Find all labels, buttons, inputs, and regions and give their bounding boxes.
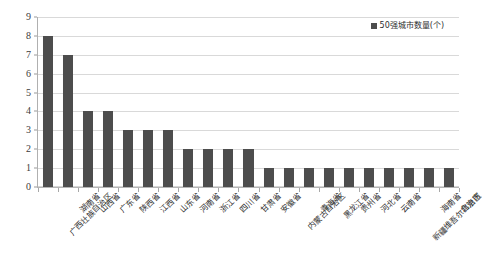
legend: 50强城市数量(个) [371,22,444,30]
legend-label: 50强城市数量(个) [380,22,444,30]
y-axis-tick-mark [34,130,37,131]
bar-slot [118,17,138,187]
x-axis-tick-mark [178,188,179,192]
x-axis-tick-label: 陕西省 [139,192,162,215]
x-axis-tick-label: 河南省 [199,192,222,215]
bar-slot [158,17,178,187]
bar-slot [138,17,158,187]
bar[interactable] [183,149,193,187]
y-axis-tick-label: 5 [26,88,31,98]
bar[interactable] [83,111,93,187]
y-axis-tick-mark [34,111,37,112]
y-axis-tick-mark [34,73,37,74]
x-axis-tick-label: 江西省 [159,192,182,215]
bar[interactable] [444,168,454,187]
bar[interactable] [364,168,374,187]
bar[interactable] [384,168,394,187]
bar[interactable] [103,111,113,187]
x-axis-tick-mark [259,188,260,192]
x-axis-tick-mark [319,188,320,192]
bar[interactable] [143,130,153,187]
x-axis-tick-mark [379,188,380,192]
y-axis-tick-mark [34,168,37,169]
bar[interactable] [344,168,354,187]
x-axis-tick-label: 广东省 [119,192,142,215]
bar-slot [399,17,419,187]
bar[interactable] [163,130,173,187]
bar-slot [299,17,319,187]
gridline [38,187,459,188]
x-axis-tick-mark [198,188,199,192]
bar-slot [58,17,78,187]
bar-slot [319,17,339,187]
x-axis-tick-mark [299,188,300,192]
x-axis-tick-mark [439,188,440,192]
x-axis-tick-mark [459,188,460,192]
x-axis-tick-mark [238,188,239,192]
bar[interactable] [43,36,53,187]
x-axis-tick-mark [279,188,280,192]
y-axis-tick-label: 9 [26,12,31,22]
bar-slot [238,17,258,187]
bar-slot [379,17,399,187]
x-axis-tick-mark [98,188,99,192]
bar-slot [218,17,238,187]
x-axis-tick-label: 山东省 [179,192,202,215]
y-axis-tick-mark [34,187,37,188]
bar-slot [178,17,198,187]
x-axis-tick-label: 安徽省 [280,192,303,215]
x-axis-tick-mark [138,188,139,192]
y-axis-tick-label: 1 [26,163,31,173]
bar-slot [259,17,279,187]
y-axis-tick-mark [34,92,37,93]
bar[interactable] [123,130,133,187]
bar[interactable] [264,168,274,187]
y-axis-tick-mark [34,54,37,55]
bar-slot [38,17,58,187]
legend-swatch-icon [371,23,377,29]
bar-slot [359,17,379,187]
x-axis-tick-label: 北京市 [460,192,483,215]
bar-slot [198,17,218,187]
x-axis-tick-mark [78,188,79,192]
bar[interactable] [324,168,334,187]
y-axis-tick-mark [34,35,37,36]
bar-slot [98,17,118,187]
y-axis-tick-label: 8 [26,31,31,41]
x-axis-tick-label: 云南省 [400,192,423,215]
bars-layer [38,17,459,187]
x-axis-tick-mark [359,188,360,192]
bar[interactable] [203,149,213,187]
bar[interactable] [223,149,233,187]
bar-slot [339,17,359,187]
bar[interactable] [424,168,434,187]
x-axis-tick-mark [419,188,420,192]
y-axis-tick-label: 0 [26,182,31,192]
y-axis-tick-label: 3 [26,125,31,135]
y-axis-tick-mark [34,149,37,150]
bar[interactable] [243,149,253,187]
bar[interactable] [284,168,294,187]
x-axis-tick-mark [399,188,400,192]
x-axis-tick-label: 四川省 [239,192,262,215]
bar-slot [78,17,98,187]
x-axis-tick-mark [118,188,119,192]
bar[interactable] [63,55,73,187]
bar[interactable] [304,168,314,187]
x-axis-tick-mark [58,188,59,192]
x-axis-tick-mark [158,188,159,192]
y-axis-tick-label: 2 [26,144,31,154]
bar[interactable] [404,168,414,187]
bar-slot [279,17,299,187]
x-axis-tick-mark [38,188,39,192]
x-axis-tick-label: 甘肃省 [260,192,283,215]
y-axis-tick-label: 4 [26,106,31,116]
y-axis-tick-labels: 9876543210 [0,17,37,187]
x-axis-tick-mark [339,188,340,192]
y-axis-tick-label: 7 [26,50,31,60]
x-axis-tick-label: 河北省 [380,192,403,215]
x-axis-tick-mark [218,188,219,192]
x-axis-tick-label: 浙江省 [219,192,242,215]
y-axis-tick-label: 6 [26,69,31,79]
